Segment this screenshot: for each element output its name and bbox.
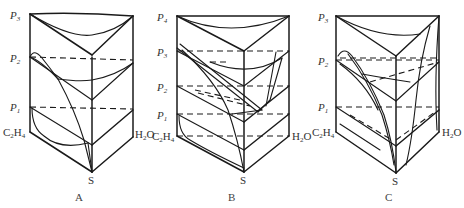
top-right-edge — [92, 16, 133, 55]
pressure-label-p2: P2 — [156, 81, 168, 95]
isobar-p2 — [30, 57, 133, 60]
surface-curve — [210, 58, 282, 69]
pressure-label-p2: P2 — [317, 55, 329, 69]
p2-right — [396, 62, 439, 101]
bottom-right-edge — [244, 136, 289, 172]
critical-curve-inner — [348, 54, 394, 165]
pressure-label-p3: P3 — [156, 46, 168, 60]
phase-diagram-figure: P3 P2 P1 C2H4 H2O S A — [0, 0, 464, 208]
surface-curve — [336, 16, 420, 35]
prism-diagram-c: P3 P2 P1 C2H4 H2O S C — [312, 11, 461, 203]
top-left-edge — [336, 16, 396, 56]
top-back-edge — [30, 13, 133, 16]
surface-curve — [362, 74, 410, 82]
boundary-line — [180, 44, 262, 110]
vertex-label-c2h4: C2H4 — [3, 126, 26, 140]
top-right-edge — [244, 16, 289, 51]
panel-caption-b: B — [228, 191, 235, 203]
low-line — [340, 124, 380, 150]
vertex-label-s: S — [240, 174, 246, 186]
bottom-left-edge — [177, 136, 244, 172]
bottom-right-edge — [396, 132, 439, 173]
bottom-right-edge — [92, 137, 133, 172]
top-right-edge — [396, 16, 439, 56]
prism-diagram-a: P3 P2 P1 C2H4 H2O S A — [3, 9, 154, 203]
pressure-label-p4: P4 — [156, 11, 168, 25]
vertex-label-s: S — [88, 174, 94, 186]
surface-curve — [58, 63, 133, 81]
pressure-label-p1: P1 — [9, 101, 20, 115]
vertex-label-c2h4: C2H4 — [152, 130, 175, 144]
pressure-label-p1: P1 — [156, 109, 167, 123]
p1-left — [177, 114, 244, 150]
surface-curve — [177, 16, 289, 28]
dashed-tie-line — [396, 112, 435, 140]
vertex-label-h2o: H2O — [292, 130, 311, 144]
p2-right — [92, 63, 133, 100]
top-left-edge — [30, 14, 92, 55]
p2-right — [244, 86, 289, 122]
p1-left — [30, 107, 92, 145]
p1-right — [92, 110, 133, 145]
p2-left — [177, 86, 244, 122]
p1-right — [244, 114, 289, 150]
pressure-label-p2: P2 — [9, 52, 21, 66]
prism-diagram-b: P4 P3 P2 P1 C2H4 H2O S B — [152, 11, 311, 203]
panel-caption-a: A — [75, 191, 83, 203]
pressure-label-p3: P3 — [317, 11, 329, 25]
pressure-label-p3: P3 — [9, 9, 21, 23]
boundary-line — [177, 48, 258, 112]
p2-left — [30, 57, 92, 100]
vertex-label-s: S — [392, 175, 398, 187]
panel-caption-c: C — [385, 191, 392, 203]
critical-curve-lower — [340, 64, 378, 110]
vertex-label-c2h4: C2H4 — [312, 126, 335, 140]
p1-right — [396, 110, 439, 146]
vertex-label-h2o: H2O — [442, 126, 461, 140]
pressure-label-p1: P1 — [317, 101, 328, 115]
top-left-edge — [177, 16, 244, 51]
isobar-p1 — [30, 107, 133, 109]
bottom-left-edge — [30, 132, 92, 172]
bottom-left-edge — [336, 132, 396, 173]
